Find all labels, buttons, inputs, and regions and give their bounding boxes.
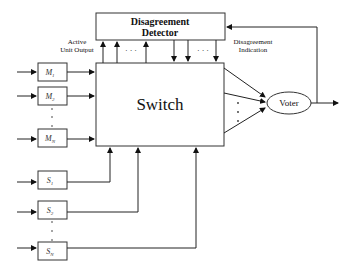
spare-dots: [51, 221, 53, 241]
active-unit-output-label-1: Active: [68, 38, 87, 46]
module-m2: M2: [17, 87, 94, 105]
active-unit-output-label-2: Unit Output: [60, 46, 94, 54]
module-dots: [51, 108, 53, 127]
voter: Voter: [267, 92, 311, 114]
detector-label-line1: Disagreement: [131, 16, 190, 27]
spare-s1: S1: [17, 148, 110, 189]
module-mn: MN: [17, 129, 94, 147]
voter-label: Voter: [279, 98, 298, 108]
down-ellipsis: · · ·: [197, 46, 209, 55]
switch-block: Switch: [96, 63, 224, 146]
disagreement-indication-label-1: Disagreement: [234, 38, 273, 46]
detector-label-line2: Detector: [142, 27, 179, 38]
disagreement-indication-label-2: Indication: [239, 46, 268, 54]
spare-s2: S2: [17, 148, 138, 219]
up-ellipsis: · · ·: [125, 46, 137, 55]
disagreement-arrows: · · ·: [174, 40, 216, 61]
switch-to-voter-arrows: [224, 68, 265, 133]
disagreement-detector: Disagreement Detector: [96, 13, 225, 40]
redundancy-diagram: Disagreement Detector Switch · · · · · ·…: [0, 0, 352, 272]
switch-label: Switch: [136, 95, 184, 114]
active-output-arrows: · · ·: [103, 42, 146, 63]
module-m1: M1: [17, 63, 94, 81]
